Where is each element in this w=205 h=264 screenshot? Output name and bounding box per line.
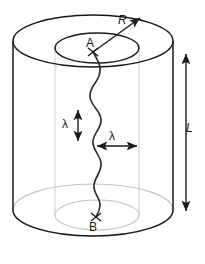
cylinder-diagram-svg xyxy=(0,0,205,264)
radius-arrow xyxy=(93,18,140,52)
polymer-chain-path xyxy=(90,52,101,217)
figure-container: A B R L λ λ xyxy=(0,0,205,264)
length-label: L xyxy=(186,122,193,134)
radius-label: R xyxy=(118,14,127,26)
lambda-vertical-label: λ xyxy=(62,118,68,130)
lambda-horizontal-label: λ xyxy=(109,130,115,142)
point-a-label: A xyxy=(86,37,94,49)
point-b-label: B xyxy=(89,221,97,233)
